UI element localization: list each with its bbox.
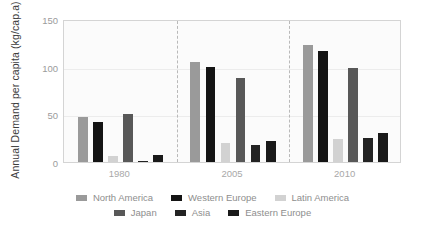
y-axis-tick-label: 150 <box>18 15 58 26</box>
y-axis-title-container: Annual Demand per capita (kg/cap.a) <box>0 0 30 180</box>
y-axis-tick-label: 50 <box>18 110 58 121</box>
bar <box>318 51 328 162</box>
x-axis-tick-label: 1980 <box>109 168 130 179</box>
bar <box>190 62 200 162</box>
legend-item[interactable]: North America <box>76 192 153 203</box>
legend-label: North America <box>93 192 153 203</box>
bar <box>236 78 246 162</box>
legend-label: Western Europe <box>188 192 256 203</box>
legend-item[interactable]: Asia <box>175 207 210 218</box>
legend-label: Latin America <box>292 192 350 203</box>
bar <box>303 45 313 162</box>
bar <box>378 133 388 162</box>
bar <box>251 145 261 162</box>
legend-swatch-icon <box>228 210 239 216</box>
x-axis-tick-label: 2010 <box>334 168 355 179</box>
bar <box>348 68 358 162</box>
y-axis-title: Annual Demand per capita (kg/cap.a) <box>9 1 21 178</box>
bar <box>363 138 373 162</box>
legend-swatch-icon <box>171 195 182 201</box>
legend-row: JapanAsiaEastern Europe <box>0 207 425 218</box>
x-axis-tick-label: 2005 <box>221 168 242 179</box>
legend-label: Japan <box>131 207 157 218</box>
legend-item[interactable]: Eastern Europe <box>228 207 311 218</box>
bar <box>333 139 343 162</box>
legend-swatch-icon <box>175 210 186 216</box>
chart-legend: North AmericaWestern EuropeLatin America… <box>0 192 425 222</box>
legend-item[interactable]: Japan <box>114 207 157 218</box>
bar <box>138 161 148 162</box>
legend-swatch-icon <box>76 195 87 201</box>
legend-swatch-icon <box>275 195 286 201</box>
bar <box>78 117 88 162</box>
bar <box>123 114 133 162</box>
y-axis-tick-label: 0 <box>18 158 58 169</box>
bar <box>153 155 163 162</box>
bar <box>266 141 276 162</box>
bar <box>206 67 216 162</box>
group-separator <box>177 21 178 162</box>
plot-inner <box>64 21 400 162</box>
y-axis-tick-label: 100 <box>18 62 58 73</box>
legend-swatch-icon <box>114 210 125 216</box>
legend-row: North AmericaWestern EuropeLatin America <box>0 192 425 203</box>
chart-figure: Annual Demand per capita (kg/cap.a) 0501… <box>0 0 425 240</box>
legend-item[interactable]: Western Europe <box>171 192 256 203</box>
legend-label: Eastern Europe <box>245 207 311 218</box>
bar <box>108 156 118 162</box>
legend-label: Asia <box>192 207 210 218</box>
bar <box>93 122 103 162</box>
bar <box>221 143 231 162</box>
plot-area <box>63 20 401 163</box>
group-separator <box>289 21 290 162</box>
legend-item[interactable]: Latin America <box>275 192 350 203</box>
